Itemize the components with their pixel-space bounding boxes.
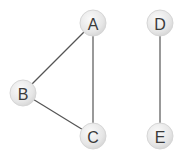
node-d: D — [147, 10, 173, 36]
node-e: E — [147, 123, 173, 149]
nodes-layer: ABCDE — [10, 10, 173, 149]
node-label: B — [18, 86, 29, 103]
node-label: E — [155, 129, 166, 146]
node-a: A — [80, 10, 106, 36]
node-label: D — [154, 16, 166, 33]
node-label: C — [87, 129, 99, 146]
node-label: A — [88, 16, 99, 33]
edges-layer — [23, 23, 160, 136]
node-b: B — [10, 80, 36, 106]
graph-diagram: ABCDE — [0, 0, 188, 161]
edge-a-b — [23, 23, 93, 93]
node-c: C — [80, 123, 106, 149]
